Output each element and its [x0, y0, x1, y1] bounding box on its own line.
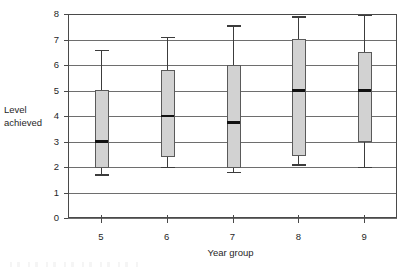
y-tick-label-6: 6 — [45, 60, 59, 70]
y-axis-ticks — [64, 15, 68, 219]
y-tick-label-5: 5 — [45, 86, 59, 96]
scan-artifact — [10, 262, 140, 267]
box-plot-chart: Level achieved 012345678 56789 Year grou… — [0, 0, 413, 275]
x-tick-label-9: 9 — [355, 232, 373, 242]
iqr-box-5 — [95, 91, 108, 168]
iqr-box-9 — [358, 52, 371, 141]
box-6 — [161, 37, 175, 168]
plot-area — [0, 0, 413, 275]
iqr-box-7 — [227, 65, 240, 167]
y-tick-label-8: 8 — [45, 9, 59, 19]
y-tick-label-3: 3 — [45, 137, 59, 147]
box-8 — [292, 17, 306, 165]
box-7 — [227, 25, 241, 172]
y-tick-label-2: 2 — [45, 162, 59, 172]
box-5 — [95, 50, 109, 175]
iqr-box-8 — [292, 40, 305, 156]
y-tick-label-1: 1 — [45, 188, 59, 198]
x-tick-label-5: 5 — [92, 232, 110, 242]
y-tick-label-0: 0 — [45, 213, 59, 223]
x-tick-label-8: 8 — [289, 232, 307, 242]
y-tick-label-7: 7 — [45, 35, 59, 45]
x-tick-label-6: 6 — [158, 232, 176, 242]
y-tick-label-4: 4 — [45, 111, 59, 121]
box-9 — [358, 15, 372, 167]
iqr-box-6 — [161, 70, 174, 157]
box-plot-series — [95, 15, 372, 175]
x-axis-title: Year group — [0, 247, 413, 258]
x-tick-label-7: 7 — [224, 232, 242, 242]
